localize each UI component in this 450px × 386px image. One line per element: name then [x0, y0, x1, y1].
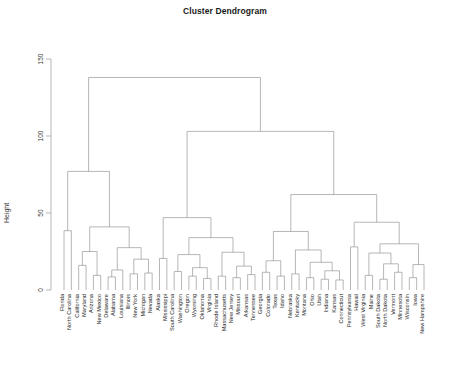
dendrogram-branch [134, 259, 149, 274]
dendrogram-branch [306, 278, 313, 290]
leaf-label: Hawaii [353, 294, 359, 311]
leaf-label: Kentucky [294, 294, 300, 317]
leaf-label: California [74, 293, 80, 318]
leaf-label: North Carolina [66, 293, 72, 330]
leaf-label: South Carolina [169, 293, 175, 331]
leaf-label: Alaska [155, 293, 161, 311]
leaf-label: Nebraska [287, 293, 293, 318]
leaf-label: Delaware [103, 294, 109, 318]
dendrogram-branch [395, 272, 402, 290]
dendrogram-branch [117, 248, 141, 270]
dendrogram-branch [68, 171, 110, 230]
dendrogram-branch [380, 244, 419, 265]
y-axis-tick-label: 150 [37, 53, 44, 64]
dendrogram-branch [277, 276, 284, 290]
leaf-label: Michigan [140, 294, 146, 316]
leaf-label: Arkansas [243, 294, 249, 318]
dendrogram-branch [163, 218, 211, 259]
leaf-label: Utah [316, 294, 322, 306]
dendrogram-branch [233, 278, 240, 290]
leaf-label: Maine [368, 294, 374, 309]
dendrogram-canvas: 050100150 FloridaNorth CarolinaCaliforni… [0, 0, 450, 386]
leaf-label: Florida [59, 293, 65, 311]
dendrogram-branch [187, 131, 334, 217]
dendrogram-branch [218, 276, 225, 290]
dendrogram-branch [93, 275, 100, 290]
leaf-label: Minnesota [397, 293, 403, 320]
leaf-label: New Mexico [96, 294, 102, 324]
leaf-label: Tennessee [250, 294, 256, 321]
leaf-label: Texas [272, 294, 278, 309]
dendrogram-branch [193, 268, 208, 279]
leaf-label: Vermont [390, 294, 396, 315]
dendrogram-branch [354, 222, 399, 247]
dendrogram-branches [64, 77, 424, 290]
dendrogram-branch [266, 261, 281, 276]
leaf-label: Montana [301, 293, 307, 316]
leaf-label: Missouri [235, 294, 241, 315]
dendrogram-branch [160, 258, 167, 290]
y-axis: 050100150 [37, 53, 51, 292]
dendrogram-branch [384, 264, 399, 279]
leaf-label: Ohio [309, 294, 315, 306]
leaf-label: Kansas [331, 294, 337, 313]
leaf-label: Arizona [88, 293, 94, 313]
leaf-label: Louisiana [118, 293, 124, 318]
leaf-label: Idaho [279, 294, 285, 308]
dendrogram-branch [79, 265, 86, 290]
leaf-label: Iowa [412, 293, 418, 306]
dendrogram-branch [273, 231, 308, 260]
dendrogram-branch [336, 280, 343, 290]
dendrogram-branch [222, 252, 244, 276]
leaf-label: New Jersey [228, 294, 234, 323]
leaf-label: Massachusetts [221, 294, 227, 332]
dendrogram-branch [108, 277, 115, 290]
leaf-label: Rhode Island [213, 294, 219, 327]
leaf-label: Illinois [125, 294, 131, 310]
dendrogram-branch [64, 231, 71, 290]
dendrogram-leaf-labels: FloridaNorth CarolinaCaliforniaMarylandA… [59, 293, 425, 334]
dendrogram-branch [237, 266, 252, 278]
dendrogram-branch [292, 274, 299, 290]
leaf-label: Virginia [206, 293, 212, 312]
dendrogram-branch [295, 250, 321, 274]
dendrogram-branch [365, 275, 372, 290]
leaf-label: Oklahoma [199, 293, 205, 319]
dendrogram-branch [112, 270, 123, 290]
dendrogram-branch [204, 278, 211, 290]
leaf-label: Maryland [81, 294, 87, 317]
dendrogram-branch [248, 275, 255, 290]
leaf-label: South Dakota [375, 293, 381, 328]
dendrogram-branch [291, 195, 377, 232]
dendrogram-branch [89, 77, 261, 171]
dendrogram-branch [178, 255, 200, 272]
dendrogram-branch [189, 276, 196, 290]
dendrogram-branch [174, 272, 181, 290]
leaf-label: Washington [177, 294, 183, 323]
leaf-label: West Virginia [360, 293, 366, 327]
dendrogram-branch [380, 279, 387, 290]
leaf-label: Wyoming [191, 294, 197, 317]
dendrogram-branch [325, 271, 340, 280]
leaf-label: New York [132, 294, 138, 318]
y-axis-tick-label: 100 [37, 130, 44, 141]
dendrogram-branch [369, 253, 391, 275]
leaf-label: North Dakota [382, 293, 388, 327]
dendrogram-branch [310, 262, 332, 277]
leaf-label: Wisconsin [404, 294, 410, 320]
dendrogram-branch [130, 274, 137, 290]
leaf-label: Oregon [184, 294, 190, 313]
leaf-label: Pennsylvania [346, 293, 352, 327]
leaf-label: Colorado [265, 294, 271, 317]
leaf-label: Mississippi [162, 294, 168, 321]
leaf-label: Nevada [147, 293, 153, 313]
y-axis-tick-label: 50 [37, 209, 44, 217]
dendrogram-branch [145, 273, 152, 290]
y-axis-tick-label: 0 [37, 288, 44, 292]
leaf-label: Georgia [257, 293, 263, 314]
leaf-label: New Hampshire [419, 294, 425, 334]
leaf-label: Connecticut [338, 294, 344, 324]
dendrogram-branch [351, 247, 358, 290]
dendrogram-branch [413, 265, 424, 290]
dendrogram-branch [262, 272, 269, 290]
